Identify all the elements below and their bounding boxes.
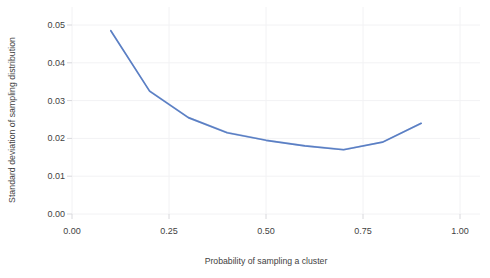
chart-figure: Standard deviation of sampling distribut…: [0, 0, 490, 278]
x-axis-title: Probability of sampling a cluster: [72, 256, 460, 266]
gridlines: [72, 7, 480, 214]
plot-area: [0, 0, 490, 278]
